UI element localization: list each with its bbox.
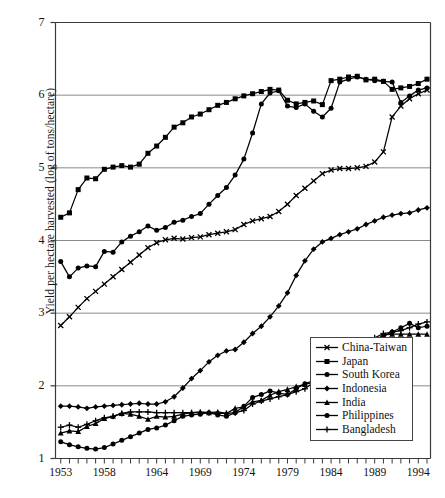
- x-tick-label: 1989: [355, 466, 395, 478]
- legend-label: Indonesia: [340, 382, 387, 395]
- y-tick-label: 7: [29, 15, 45, 30]
- legend-item-japan[interactable]: Japan: [314, 355, 408, 369]
- legend-marker-circle-square-icon: [314, 368, 340, 381]
- x-tick-label: 1964: [137, 466, 177, 478]
- x-tick-label: 1958: [84, 466, 124, 478]
- legend-item-bangladesh[interactable]: Bangladesh: [314, 423, 408, 437]
- series-south-korea: [58, 75, 429, 280]
- legend-marker-circle-icon: [314, 409, 340, 422]
- legend-marker-triangle-icon: [314, 396, 340, 409]
- x-tick-label: 1969: [180, 466, 220, 478]
- series-japan: [58, 74, 429, 220]
- legend-label: India: [340, 396, 366, 409]
- x-tick-label: 1994: [398, 466, 438, 478]
- y-tick-label: 5: [29, 160, 45, 175]
- x-tick-label: 1979: [267, 466, 307, 478]
- y-tick-label: 6: [29, 87, 45, 102]
- x-tick-label: 1953: [41, 466, 81, 478]
- legend-item-philippines[interactable]: Philippines: [314, 409, 408, 423]
- y-tick-label: 2: [29, 378, 45, 393]
- series-china-taiwan: [58, 88, 429, 328]
- y-tick-label: 4: [29, 233, 45, 248]
- legend-item-indonesia[interactable]: Indonesia: [314, 382, 408, 396]
- legend-marker-square-icon: [314, 355, 340, 368]
- y-tick-label: 3: [29, 305, 45, 320]
- legend-marker-plus-icon: [314, 423, 340, 436]
- legend-item-south-korea[interactable]: South Korea: [314, 368, 408, 382]
- legend-item-india[interactable]: India: [314, 395, 408, 409]
- chart-legend: China-TaiwanJapanSouth KoreaIndonesiaInd…: [310, 337, 413, 441]
- legend-label: Philippines: [340, 409, 394, 422]
- legend-label: South Korea: [340, 368, 400, 381]
- chart-figure: Yield per hectare harvested (log of tons…: [0, 0, 445, 498]
- legend-marker-diamond-icon: [314, 382, 340, 395]
- legend-item-china-taiwan[interactable]: China-Taiwan: [314, 341, 408, 355]
- y-tick-label: 1: [29, 451, 45, 466]
- legend-label: Japan: [340, 355, 368, 368]
- legend-marker-x-icon: [314, 341, 340, 354]
- legend-label: Bangladesh: [340, 423, 396, 436]
- y-axis-label: Yield per hectare harvested (log of tons…: [44, 51, 56, 351]
- legend-label: China-Taiwan: [340, 341, 407, 354]
- x-tick-label: 1984: [311, 466, 351, 478]
- x-tick-label: 1974: [224, 466, 264, 478]
